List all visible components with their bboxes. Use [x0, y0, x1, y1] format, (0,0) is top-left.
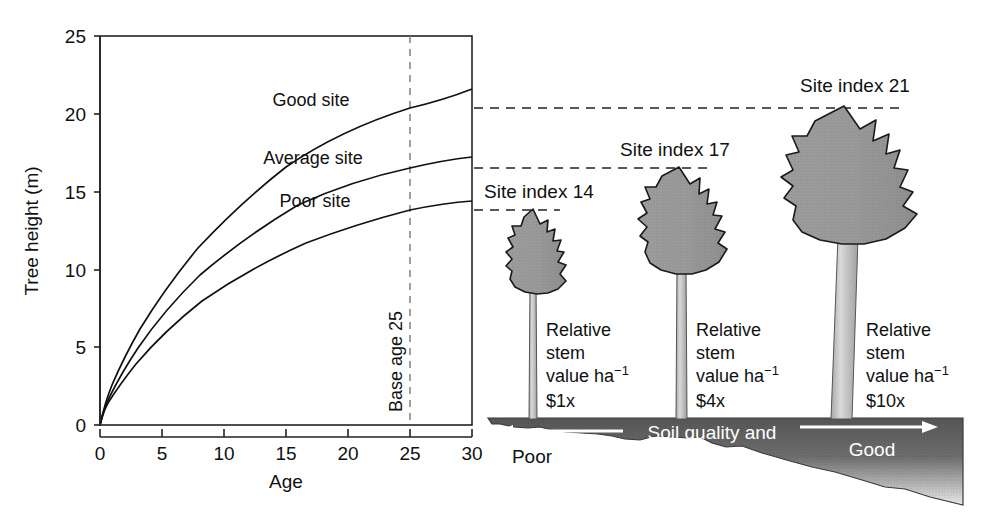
stem-value-line-1: Relative	[696, 320, 761, 340]
y-tick-15: 15	[65, 182, 86, 203]
stem-value-line-2: stem	[546, 343, 585, 363]
y-axis	[94, 36, 100, 425]
curve-label-average: Average site	[263, 148, 363, 168]
tree-large-stem	[831, 236, 858, 419]
tree-medium-stem	[676, 263, 687, 419]
tree-medium-stem-value: Relative stem value ha−1 $4x	[696, 320, 779, 411]
tree-small	[506, 209, 566, 419]
tree-medium-site-index: Site index 17	[620, 139, 730, 160]
x-tick-0: 0	[95, 443, 106, 464]
soil-left-label: Poor	[512, 446, 553, 467]
stem-value-line-1: Relative	[866, 320, 931, 340]
tree-large-stem-value: Relative stem value ha−1 $10x	[866, 320, 949, 411]
stem-value-exponent: −1	[934, 363, 949, 378]
tree-small-stem-value: Relative stem value ha−1 $1x	[546, 320, 629, 411]
x-tick-20: 20	[337, 443, 358, 464]
tree-small-site-index: Site index 14	[484, 181, 594, 202]
stem-value-line-3: value ha−1	[546, 363, 629, 386]
x-tick-10: 10	[213, 443, 234, 464]
stem-value-line-2: stem	[696, 343, 735, 363]
x-axis-label: Age	[269, 471, 303, 492]
x-tick-15: 15	[275, 443, 296, 464]
stem-value-amount: $10x	[866, 391, 905, 411]
tree-large-site-index: Site index 21	[800, 75, 910, 96]
stem-value-exponent: −1	[764, 363, 779, 378]
x-tick-30: 30	[461, 443, 482, 464]
stem-value-line-1: Relative	[546, 320, 611, 340]
stem-value-line-3: value ha−1	[866, 363, 949, 386]
y-axis-label: Tree height (m)	[21, 166, 42, 295]
curve-label-poor: Poor site	[279, 191, 350, 211]
tree-small-stem	[529, 281, 537, 419]
stem-value-unit: value ha	[696, 366, 765, 386]
stem-value-exponent: −1	[614, 363, 629, 378]
stem-value-unit: value ha	[866, 366, 935, 386]
soil-caption-line1: Soil quality and	[648, 422, 777, 443]
stem-value-line-3: value ha−1	[696, 363, 779, 386]
y-tick-labels: 25 20 15 10 5 0	[65, 26, 86, 436]
y-tick-0: 0	[75, 415, 86, 436]
stem-value-amount: $1x	[546, 391, 575, 411]
y-tick-20: 20	[65, 104, 86, 125]
stem-value-amount: $4x	[696, 391, 725, 411]
x-tick-5: 5	[157, 443, 168, 464]
x-tick-25: 25	[399, 443, 420, 464]
base-age-label: Base age 25	[386, 311, 406, 412]
figure-svg: Soil quality and quantity Poor Good Site…	[0, 0, 986, 522]
x-axis	[100, 429, 472, 437]
stem-value-line-2: stem	[866, 343, 905, 363]
x-tick-labels: 0 5 10 15 20 25 30	[95, 443, 483, 464]
y-tick-5: 5	[75, 337, 86, 358]
stem-value-unit: value ha	[546, 366, 615, 386]
y-tick-25: 25	[65, 26, 86, 47]
figure-root: Soil quality and quantity Poor Good Site…	[0, 0, 986, 522]
curve-label-good: Good site	[272, 90, 349, 110]
soil-caption-line2: quantity	[679, 444, 746, 465]
soil-right-label: Good	[849, 439, 895, 460]
y-tick-10: 10	[65, 260, 86, 281]
